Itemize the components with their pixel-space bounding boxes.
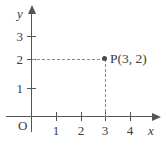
coordinate-plane-figure: y x O 3 2 1 1 2 3 4 P(3, 2) [0,0,166,148]
x-tick-mark-4 [130,112,131,121]
y-tick-label-1: 1 [9,82,23,95]
y-tick-mark-1 [27,88,36,89]
point-label-p: P(3, 2) [110,52,147,66]
y-tick-label-2: 2 [9,53,23,66]
vertical-guide-line [105,59,106,117]
x-axis-arrow-icon [152,113,161,121]
y-tick-mark-3 [27,36,36,37]
x-tick-mark-2 [81,112,82,121]
x-tick-label-4: 4 [122,124,138,137]
y-axis-arrow-icon [28,5,36,14]
y-tick-label-3: 3 [9,30,23,43]
y-axis-line [31,10,32,132]
x-tick-label-2: 2 [73,124,89,137]
y-axis-label: y [17,7,23,20]
x-tick-mark-1 [56,112,57,121]
x-tick-label-1: 1 [48,124,64,137]
x-axis-label: x [148,124,154,137]
horizontal-guide-line [32,59,105,60]
x-tick-label-3: 3 [97,124,113,137]
origin-label: O [18,119,27,132]
point-marker-p [102,56,107,61]
